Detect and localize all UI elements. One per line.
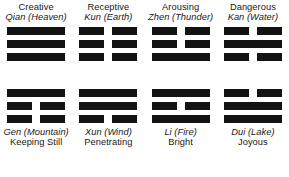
line-segment	[224, 40, 282, 48]
line-segment-right	[112, 27, 137, 35]
trigram-line-1	[7, 27, 65, 35]
line-segment-left	[7, 115, 32, 123]
line-segment-left	[79, 115, 104, 123]
line-segment	[7, 89, 65, 97]
trigram-pinyin: Xun (Wind)	[72, 127, 144, 137]
line-segment-right	[112, 115, 137, 123]
line-segment	[224, 102, 282, 110]
line-segment	[7, 40, 65, 48]
trigram-attribute: Keeping Still	[0, 137, 72, 147]
trigram-attribute: Joyous	[217, 137, 289, 147]
trigram-attribute: Penetrating	[72, 137, 144, 147]
line-segment-left	[7, 102, 32, 110]
line-segment	[7, 53, 65, 61]
trigram-labels-kun: Receptive Kun (Earth)	[72, 2, 144, 23]
line-segment-right	[257, 27, 282, 35]
trigram-cell-zhen: Arousing Zhen (Thunder)	[145, 2, 217, 88]
trigram-line-3	[79, 115, 137, 123]
trigram-line-1	[152, 27, 210, 35]
trigram-line-2	[7, 40, 65, 48]
line-segment	[7, 27, 65, 35]
line-segment	[79, 102, 137, 110]
line-segment-left	[152, 27, 177, 35]
trigram-cell-kun: Receptive Kun (Earth)	[72, 2, 144, 88]
trigram-cell-qian: Creative Qian (Heaven)	[0, 2, 72, 88]
trigram-cell-dui: Dui (Lake) Joyous	[217, 89, 289, 177]
line-segment-right	[185, 27, 210, 35]
line-segment-left	[152, 102, 177, 110]
trigram-line-1	[79, 27, 137, 35]
trigram-line-3	[7, 115, 65, 123]
line-segment-left	[79, 53, 104, 61]
line-segment	[152, 53, 210, 61]
line-segment-left	[79, 40, 104, 48]
trigram-line-1	[7, 89, 65, 97]
trigram-line-2	[152, 40, 210, 48]
trigram-glyph-kan	[224, 27, 282, 61]
trigram-labels-dui: Dui (Lake) Joyous	[217, 127, 289, 148]
trigram-glyph-zhen	[152, 27, 210, 61]
trigram-cell-xun: Xun (Wind) Penetrating	[72, 89, 144, 177]
trigram-line-2	[152, 102, 210, 110]
line-segment-left	[224, 89, 249, 97]
trigram-name: Arousing	[145, 2, 217, 12]
line-segment-left	[152, 40, 177, 48]
trigram-labels-zhen: Arousing Zhen (Thunder)	[145, 2, 217, 23]
trigram-line-1	[224, 89, 282, 97]
line-segment-right	[185, 40, 210, 48]
trigram-row-bottom: Gen (Mountain) Keeping Still Xun (Wind) …	[0, 88, 289, 177]
trigram-name: Receptive	[72, 2, 144, 12]
trigram-cell-li: Li (Fire) Bright	[145, 89, 217, 177]
trigram-pinyin: Gen (Mountain)	[0, 127, 72, 137]
trigram-line-2	[224, 102, 282, 110]
line-segment-right	[112, 53, 137, 61]
trigram-line-1	[224, 27, 282, 35]
trigram-line-3	[79, 53, 137, 61]
bagua-trigram-chart: Creative Qian (Heaven) Receptive Kun (Ea…	[0, 0, 289, 177]
line-segment	[152, 115, 210, 123]
trigram-glyph-gen	[7, 89, 65, 123]
trigram-glyph-qian	[7, 27, 65, 61]
trigram-line-3	[224, 115, 282, 123]
trigram-line-3	[152, 115, 210, 123]
line-segment-left	[224, 27, 249, 35]
trigram-pinyin: Dui (Lake)	[217, 127, 289, 137]
trigram-labels-kan: Dangerous Kan (Water)	[217, 2, 289, 23]
line-segment-left	[79, 27, 104, 35]
trigram-name: Dangerous	[217, 2, 289, 12]
trigram-glyph-dui	[224, 89, 282, 123]
trigram-labels-gen: Gen (Mountain) Keeping Still	[0, 127, 72, 148]
trigram-line-2	[79, 102, 137, 110]
trigram-pinyin: Zhen (Thunder)	[145, 12, 217, 22]
trigram-line-2	[79, 40, 137, 48]
line-segment-left	[224, 53, 249, 61]
trigram-line-1	[79, 89, 137, 97]
trigram-glyph-li	[152, 89, 210, 123]
trigram-line-3	[152, 53, 210, 61]
trigram-cell-gen: Gen (Mountain) Keeping Still	[0, 89, 72, 177]
line-segment-right	[257, 89, 282, 97]
trigram-line-2	[7, 102, 65, 110]
line-segment-right	[40, 102, 65, 110]
trigram-glyph-kun	[79, 27, 137, 61]
trigram-line-1	[152, 89, 210, 97]
line-segment-right	[40, 115, 65, 123]
trigram-labels-qian: Creative Qian (Heaven)	[0, 2, 72, 23]
trigram-row-top: Creative Qian (Heaven) Receptive Kun (Ea…	[0, 0, 289, 88]
trigram-line-2	[224, 40, 282, 48]
trigram-line-3	[7, 53, 65, 61]
line-segment	[224, 115, 282, 123]
trigram-labels-li: Li (Fire) Bright	[145, 127, 217, 148]
trigram-labels-xun: Xun (Wind) Penetrating	[72, 127, 144, 148]
trigram-attribute: Bright	[145, 137, 217, 147]
line-segment-right	[257, 53, 282, 61]
line-segment-right	[112, 40, 137, 48]
line-segment-right	[185, 102, 210, 110]
trigram-pinyin: Kan (Water)	[217, 12, 289, 22]
trigram-cell-kan: Dangerous Kan (Water)	[217, 2, 289, 88]
trigram-pinyin: Li (Fire)	[145, 127, 217, 137]
trigram-line-3	[224, 53, 282, 61]
line-segment	[79, 89, 137, 97]
trigram-name: Creative	[0, 2, 72, 12]
line-segment	[152, 89, 210, 97]
